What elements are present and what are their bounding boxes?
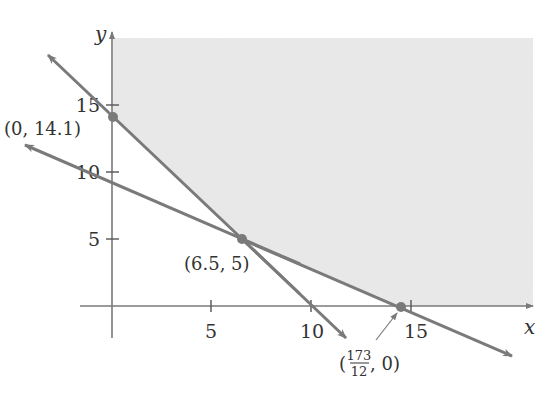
x-tick-label-5: 5 <box>205 320 217 342</box>
x-tick-label-15: 15 <box>404 320 428 342</box>
y-tick-label-5: 5 <box>88 228 100 250</box>
feasible-region <box>113 38 533 306</box>
svg-text:(: ( <box>339 353 346 374</box>
point-label-0-14.1: (0, 14.1) <box>4 118 81 139</box>
svg-text:173: 173 <box>347 348 372 363</box>
svg-text:, 0): , 0) <box>370 353 400 374</box>
y-axis-label: y <box>94 22 107 46</box>
leader-arrow <box>376 313 397 340</box>
corner-point-6.5-5 <box>237 234 247 244</box>
y-tick-label-15: 15 <box>76 94 100 116</box>
x-axis-label: x <box>524 315 535 339</box>
corner-point-0-14.1 <box>108 112 118 122</box>
linear-programming-graph: 5 10 15 5 10 15 x y (0, 14.1) (6.5, 5) (… <box>0 0 558 399</box>
point-label-173-12-0: ( 173 12 , 0) <box>339 348 400 379</box>
corner-point-173-12-0 <box>396 302 406 312</box>
x-tick-label-10: 10 <box>300 320 324 342</box>
point-label-6.5-5: (6.5, 5) <box>184 253 250 274</box>
svg-text:12: 12 <box>351 364 368 379</box>
